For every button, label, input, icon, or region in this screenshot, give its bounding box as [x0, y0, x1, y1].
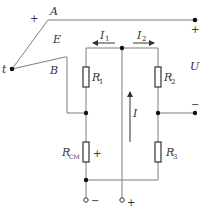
- label-a: A: [49, 5, 58, 18]
- label-a-plus: +: [30, 13, 38, 24]
- label-i: I: [132, 107, 138, 120]
- label-u: U: [190, 60, 200, 73]
- left-mid-node: [84, 111, 88, 115]
- circuit-diagram: t A + E B I 1 I 2 I R 1 R 2 R 3 R CM + U…: [0, 0, 203, 215]
- output-plus-node: [193, 18, 198, 23]
- label-b: B: [49, 64, 58, 77]
- wire-a: [12, 20, 195, 69]
- resistor-r1: [83, 67, 89, 87]
- label-emf: E: [52, 33, 61, 46]
- label-junction: t: [2, 63, 7, 76]
- label-i1-sub: 1: [105, 35, 109, 43]
- wire-b: [12, 57, 86, 113]
- junction-node: [10, 67, 15, 72]
- label-rcm-plus: +: [93, 148, 101, 159]
- label-output-plus: +: [191, 24, 199, 35]
- label-r2-sub: 2: [171, 78, 175, 86]
- top-node: [120, 46, 124, 50]
- label-output-minus: −: [191, 99, 199, 110]
- supply-minus-terminal: [84, 198, 88, 202]
- bottom-node: [84, 178, 88, 182]
- output-minus-node: [193, 111, 197, 115]
- label-r1-sub: 1: [99, 78, 103, 86]
- right-mid-node: [156, 111, 160, 115]
- label-supply-plus: +: [127, 197, 135, 208]
- resistor-rcm: [83, 142, 89, 162]
- label-i2-sub: 2: [142, 35, 146, 43]
- resistor-r2: [155, 67, 161, 87]
- wire-r2-column: [122, 48, 158, 113]
- label-r3-sub: 3: [173, 153, 177, 161]
- label-supply-minus: −: [91, 195, 99, 206]
- supply-plus-terminal: [120, 198, 124, 202]
- resistor-r3: [155, 142, 161, 162]
- label-rcm-sub: CM: [69, 153, 80, 160]
- wires: [12, 20, 195, 198]
